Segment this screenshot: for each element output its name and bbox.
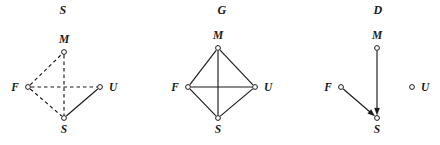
- graph-panel-s: S MFUS: [0, 0, 148, 145]
- graph-edge-U-S: [66, 89, 97, 116]
- graph-node-S: [62, 116, 67, 121]
- graph-node-label-S: S: [61, 123, 67, 135]
- graph-panel-d: D MFUS: [294, 0, 440, 145]
- graph-arrowhead-M-S: [374, 108, 379, 115]
- graph-node-label-M: M: [58, 33, 70, 45]
- graph-node-M: [375, 46, 380, 51]
- graph-panel-g: G MFUS: [148, 0, 294, 145]
- graph-edge-M-U: [220, 50, 253, 85]
- graph-node-S: [375, 116, 380, 121]
- graph-edge-F-M: [30, 54, 62, 85]
- graph-node-label-F: F: [10, 81, 19, 93]
- graph-node-M: [216, 46, 221, 51]
- graph-s-edge-layer: [30, 54, 98, 116]
- graph-edge-U-S: [220, 89, 252, 116]
- graph-d-canvas: MFUS: [294, 0, 440, 145]
- graph-node-label-U: U: [264, 81, 273, 93]
- graph-node-F: [26, 85, 31, 90]
- graph-edge-F-S: [30, 89, 61, 116]
- graph-node-label-S: S: [215, 123, 221, 135]
- graph-node-label-F: F: [170, 81, 179, 93]
- graph-node-label-U: U: [109, 81, 118, 93]
- graph-node-F: [186, 85, 191, 90]
- graph-g-edge-layer: [190, 50, 253, 116]
- graph-node-S: [216, 116, 221, 121]
- graph-node-label-F: F: [323, 81, 332, 93]
- graph-node-U: [410, 85, 415, 90]
- graph-edge-F-M: [190, 50, 216, 84]
- graph-d-edge-layer: [343, 51, 379, 116]
- graph-node-label-M: M: [371, 29, 383, 41]
- graph-g-canvas: MFUS: [148, 0, 294, 145]
- graph-figure: S MFUS G MFUS D MFUS: [0, 0, 440, 145]
- graph-edge-S-F: [190, 89, 216, 116]
- graph-node-F: [339, 85, 344, 90]
- graph-node-U: [98, 85, 103, 90]
- graph-node-M: [62, 50, 67, 55]
- graph-s-canvas: MFUS: [0, 0, 148, 145]
- graph-node-label-U: U: [421, 81, 430, 93]
- graph-node-label-M: M: [212, 29, 224, 41]
- graph-node-label-S: S: [374, 123, 380, 135]
- graph-node-U: [253, 85, 258, 90]
- graph-edge-F-S: [343, 89, 371, 113]
